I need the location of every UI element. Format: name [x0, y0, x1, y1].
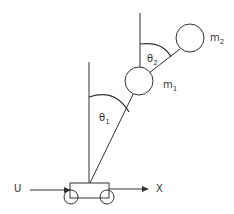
theta1-subscript: 1 — [105, 118, 109, 126]
theta2-label: θ2 — [147, 54, 158, 67]
m2-label: m2 — [210, 33, 224, 46]
m2-subscript: 2 — [220, 38, 224, 46]
m2-symbol: m — [210, 32, 220, 43]
theta1-label: θ1 — [99, 113, 110, 126]
position-arrowhead — [142, 186, 149, 192]
m1-symbol: m — [163, 79, 173, 90]
m1-label: m1 — [163, 80, 177, 93]
cart-body — [70, 183, 109, 198]
mass-m2 — [176, 24, 204, 52]
input-label: U — [14, 184, 21, 194]
position-label: X — [156, 184, 163, 194]
diagram-canvas — [0, 0, 234, 214]
mass-m1 — [125, 67, 153, 95]
theta1-arc — [89, 95, 129, 112]
m1-subscript: 1 — [173, 85, 177, 93]
theta2-subscript: 2 — [153, 59, 157, 67]
